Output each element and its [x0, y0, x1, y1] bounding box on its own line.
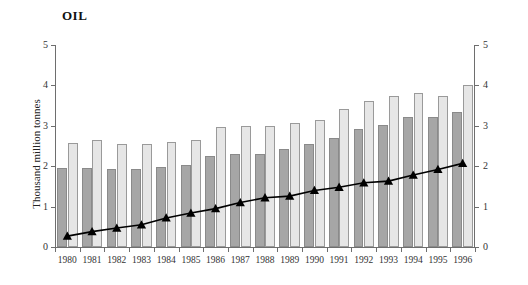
bar-dark: [403, 117, 413, 247]
bar-dark: [452, 112, 462, 247]
y-tick-mark: [51, 166, 55, 167]
x-tick-mark: [80, 247, 81, 252]
bar-dark: [304, 144, 314, 247]
chart-title: OIL: [62, 8, 87, 24]
bar-light: [191, 140, 201, 247]
y-tick-label-right: 1: [483, 202, 495, 212]
plot-area: 012345 012345 19801981198219831984198519…: [55, 45, 475, 247]
bar-light: [92, 140, 102, 247]
y-tick-label-left: 3: [38, 121, 48, 131]
bar-light: [142, 144, 152, 247]
x-tick-mark: [253, 247, 254, 252]
y-tick-mark: [51, 45, 55, 46]
bar-light: [241, 126, 251, 247]
y-tick-label-left: 2: [38, 161, 48, 171]
bar-dark: [82, 168, 92, 247]
x-tick-mark: [179, 247, 180, 252]
y-tick-mark: [51, 207, 55, 208]
bar-light: [167, 142, 177, 247]
bar-light: [315, 120, 325, 247]
y-tick-label-left: 1: [38, 202, 48, 212]
y-tick-mark-right: [475, 85, 479, 86]
bar-light: [414, 93, 424, 247]
bar-light: [216, 127, 226, 247]
x-tick-mark: [228, 247, 229, 252]
bottom-axis-line: [55, 247, 475, 248]
bar-dark: [428, 117, 438, 247]
x-tick-mark: [277, 247, 278, 252]
y-tick-mark: [51, 126, 55, 127]
bar-dark: [57, 168, 67, 247]
bar-dark: [255, 154, 265, 247]
bar-dark: [156, 167, 166, 247]
y-axis-label: Thousand million tonnes: [30, 64, 42, 244]
left-axis-line: [55, 45, 56, 248]
bar-light: [290, 123, 300, 247]
x-tick-mark: [450, 247, 451, 252]
y-tick-label-right: 0: [483, 242, 495, 252]
bar-light: [68, 143, 78, 247]
x-tick-mark: [376, 247, 377, 252]
y-tick-label-right: 4: [483, 80, 495, 90]
x-tick-mark: [351, 247, 352, 252]
x-tick-mark: [426, 247, 427, 252]
bar-light: [339, 109, 349, 247]
y-tick-label-left: 0: [38, 242, 48, 252]
bar-light: [265, 126, 275, 247]
y-tick-label-left: 5: [38, 40, 48, 50]
y-tick-label-right: 2: [483, 161, 495, 171]
bar-light: [438, 96, 448, 247]
bar-dark: [354, 129, 364, 247]
x-tick-mark: [154, 247, 155, 252]
y-tick-mark-right: [475, 166, 479, 167]
y-tick-mark-right: [475, 45, 479, 46]
bar-dark: [205, 156, 215, 247]
bar-dark: [279, 149, 289, 247]
y-tick-mark-right: [475, 207, 479, 208]
bar-dark: [181, 165, 191, 247]
bar-dark: [107, 169, 117, 247]
x-tick-mark: [55, 247, 56, 252]
y-tick-mark-right: [475, 126, 479, 127]
x-tick-mark: [203, 247, 204, 252]
bar-light: [463, 85, 473, 247]
bar-dark: [131, 169, 141, 247]
oil-production-chart: OIL Thousand million tonnes 012345 01234…: [0, 0, 528, 285]
right-axis-line: [474, 45, 475, 248]
x-tick-mark: [475, 247, 476, 252]
bar-light: [389, 96, 399, 247]
bar-dark: [230, 154, 240, 247]
x-tick-mark: [327, 247, 328, 252]
x-tick-label: 1996: [449, 256, 477, 266]
x-tick-mark: [401, 247, 402, 252]
x-tick-mark: [129, 247, 130, 252]
bar-dark: [378, 125, 388, 247]
bar-dark: [329, 138, 339, 247]
y-tick-label-left: 4: [38, 80, 48, 90]
bar-light: [117, 144, 127, 247]
y-tick-mark: [51, 85, 55, 86]
bar-light: [364, 101, 374, 247]
x-tick-mark: [104, 247, 105, 252]
x-tick-mark: [302, 247, 303, 252]
y-tick-label-right: 3: [483, 121, 495, 131]
y-tick-label-right: 5: [483, 40, 495, 50]
